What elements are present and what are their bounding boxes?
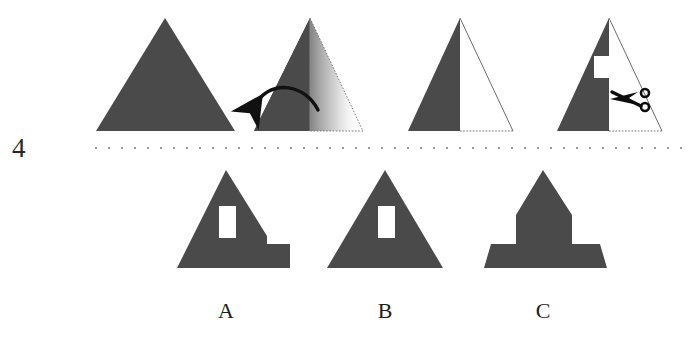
triangle-unfolded <box>96 18 235 131</box>
scissors-icon <box>610 89 649 111</box>
option-b-shape[interactable] <box>327 170 443 268</box>
puzzle-page: 4 A B C <box>0 0 693 350</box>
triangle-folded-solid <box>408 18 460 131</box>
step-3-folded-sheet <box>408 18 513 131</box>
triangle-fold-body <box>254 18 310 131</box>
step-2-fold-action <box>254 18 363 131</box>
option-b-label[interactable]: B <box>355 300 415 322</box>
option-b-hole <box>378 206 395 238</box>
step-4-cut-action <box>557 18 662 131</box>
option-a-hole <box>219 206 236 238</box>
triangle-cut-solid <box>557 18 609 131</box>
folded-right-edge <box>460 18 513 131</box>
question-number: 4 <box>12 135 26 162</box>
option-a-shape[interactable] <box>177 170 290 268</box>
option-c-label[interactable]: C <box>513 300 573 322</box>
option-c-body <box>484 170 607 268</box>
option-c-shape[interactable] <box>484 170 607 268</box>
cut-right-edge <box>609 18 662 131</box>
step-1-unfolded-sheet <box>96 18 235 131</box>
option-a-label[interactable]: A <box>196 300 256 322</box>
puzzle-figure <box>0 0 693 350</box>
